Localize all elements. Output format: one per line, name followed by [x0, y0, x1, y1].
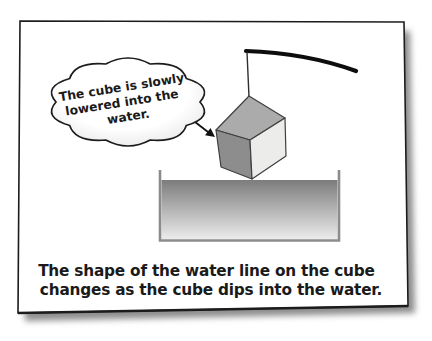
caption: The shape of the water line on the cube … [38, 262, 382, 299]
caption-line-1: The shape of the water line on the cube [38, 262, 375, 280]
water [162, 180, 338, 239]
physics-cube-water-illustration: The cube is slowly lowered into the wate… [0, 0, 432, 341]
caption-line-2: changes as the cube dips into the water. [40, 281, 382, 299]
illustration-panel-stage: The cube is slowly lowered into the wate… [0, 0, 432, 341]
